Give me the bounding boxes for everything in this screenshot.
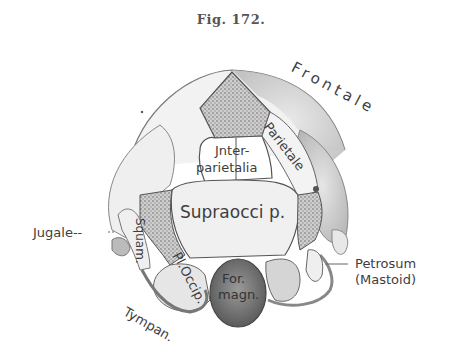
label-interparietalia-2: parietalia [196, 161, 257, 174]
label-petrosum: Petrosum [355, 257, 416, 270]
petrosum-shape [306, 250, 323, 282]
skull-diagram [0, 0, 462, 356]
label-for-magn-2: magn. [218, 288, 259, 301]
label-mastoid: (Mastoid) [355, 273, 416, 286]
label-squam: Squam. [134, 218, 146, 264]
label-supraoccipital: Supraocci p. [180, 204, 285, 221]
label-jugale: Jugale-- [33, 226, 82, 239]
exoccipital-right [266, 259, 300, 301]
label-interparietalia-1: Jnter- [215, 144, 249, 157]
label-for-magn-1: For. [222, 272, 245, 285]
fontanelle-right [298, 192, 322, 250]
